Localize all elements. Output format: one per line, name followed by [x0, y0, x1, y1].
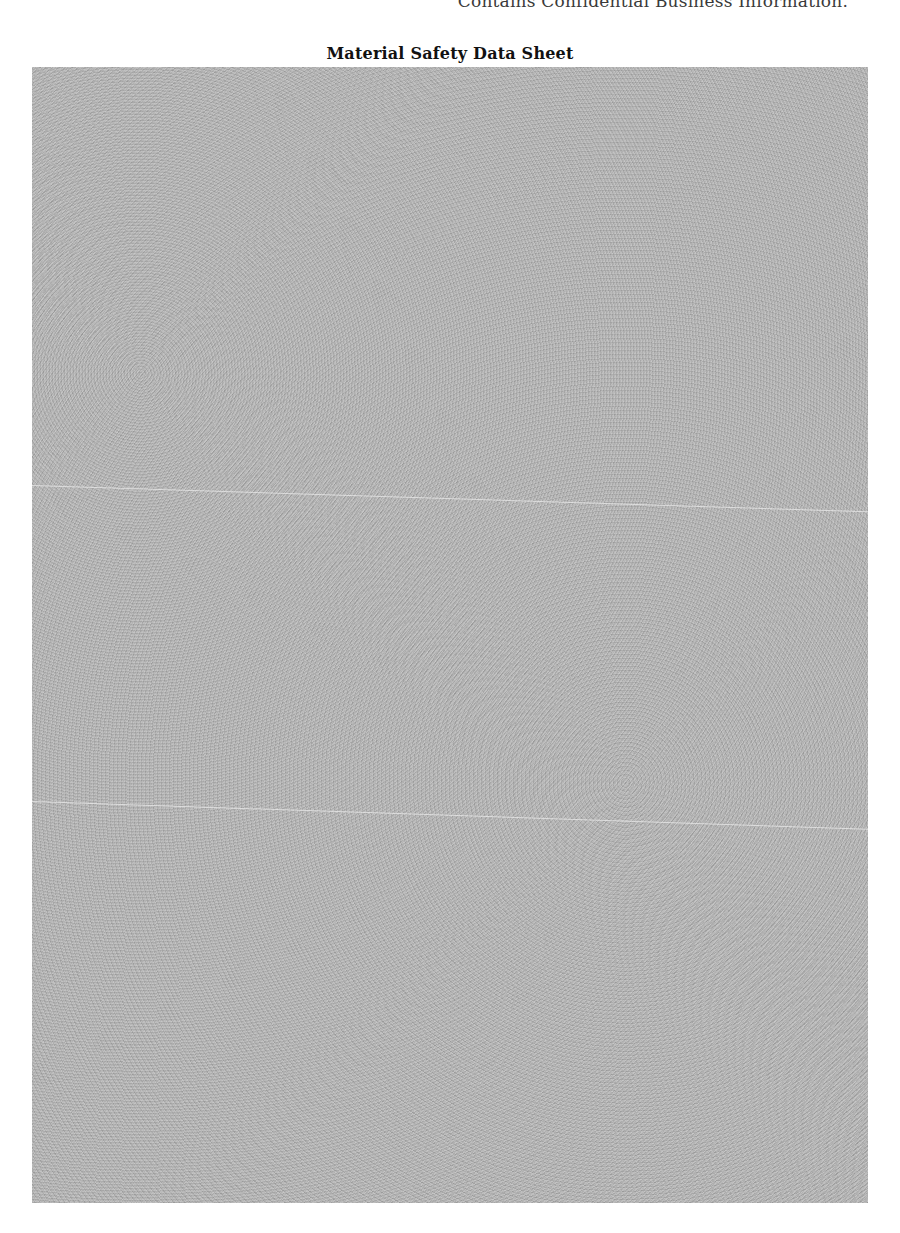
scan-artifact-line — [32, 801, 868, 830]
confidentiality-notice: Contains Confidential Business Informati… — [458, 0, 848, 11]
document-title: Material Safety Data Sheet — [0, 44, 900, 63]
redacted-content-block — [32, 67, 868, 1203]
scan-artifact-line — [32, 485, 868, 512]
